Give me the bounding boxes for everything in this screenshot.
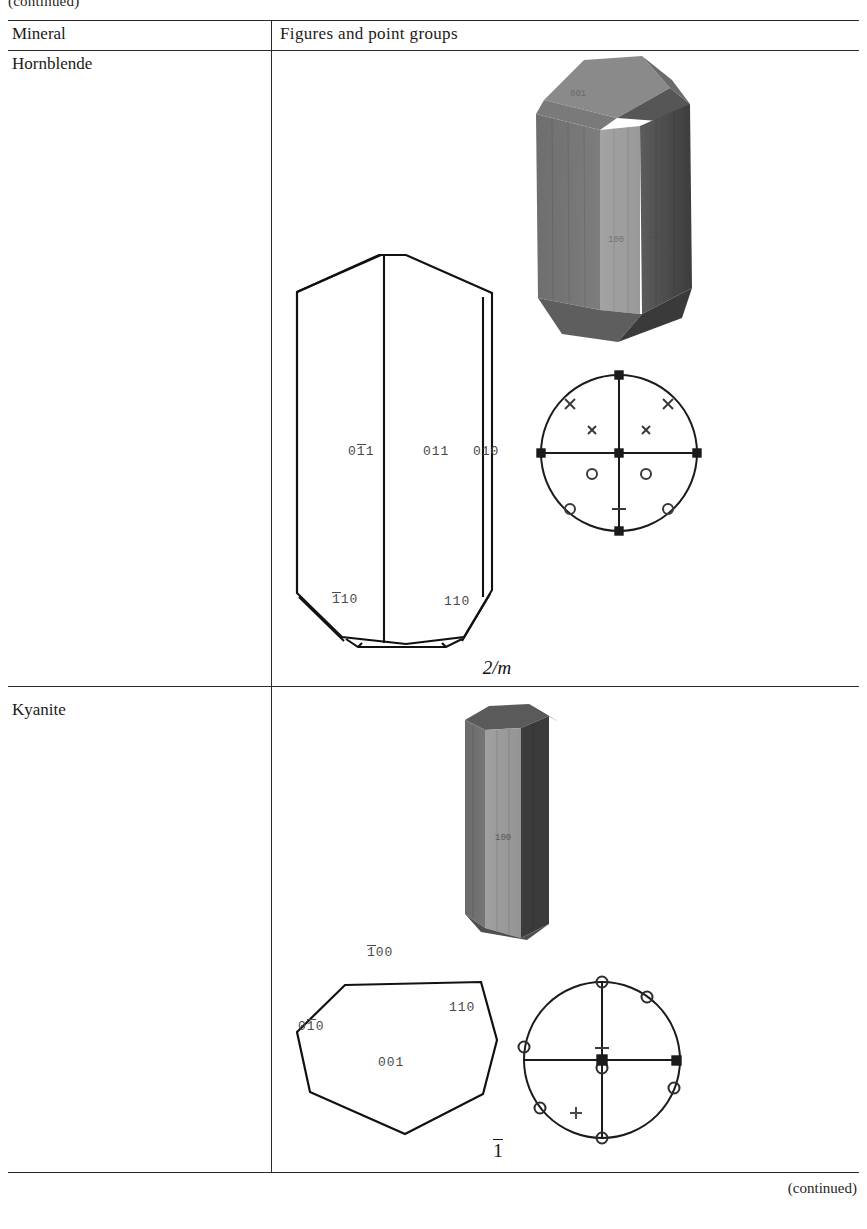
- hornblende-stereonet: [534, 362, 704, 544]
- kyanite-face-label-0bar10: 010: [298, 1019, 324, 1034]
- kyanite-3d-label-front: 100: [495, 833, 511, 843]
- table-bottom-rule: [8, 1172, 859, 1173]
- kyanite-face-label-001: 001: [378, 1055, 404, 1070]
- kyanite-point-group: 1: [468, 1140, 528, 1162]
- column-header-figures: Figures and point groups: [280, 24, 458, 44]
- page-bottom-continued-note: (continued): [788, 1180, 857, 1197]
- hornblende-face-label-010: 010: [473, 444, 499, 459]
- kyanite-line-drawing: [285, 940, 505, 1160]
- kyanite-face-label-bar100: 100: [367, 945, 393, 960]
- column-header-mineral: Mineral: [12, 24, 66, 44]
- hornblende-3d-label-top-right: 111: [648, 231, 664, 241]
- kyanite-stereonet: [512, 965, 692, 1155]
- hornblende-3d-label-center: 100: [608, 235, 624, 245]
- table-row-mineral-hornblende: Hornblende: [12, 54, 92, 74]
- hornblende-face-label-011: 011: [423, 444, 449, 459]
- table-row-mineral-kyanite: Kyanite: [12, 700, 66, 720]
- hornblende-point-group: 2/m: [452, 657, 542, 679]
- kyanite-3d-crystal-render: 100: [455, 700, 573, 945]
- kyanite-point-group-value: 1: [493, 1140, 503, 1162]
- table-header-rule: [8, 50, 859, 51]
- page-top-continued-note: (continued): [8, 0, 79, 10]
- hornblende-face-label-110: 110: [444, 594, 470, 609]
- table-top-rule: [8, 20, 859, 21]
- hornblende-3d-label-top-left: 001: [570, 89, 586, 99]
- table-row-divider: [8, 686, 859, 687]
- kyanite-face-label-110: 110: [449, 1000, 475, 1015]
- hornblende-face-label-bar110: 110: [332, 592, 358, 607]
- hornblende-3d-crystal-render: 001 100 111: [522, 52, 707, 357]
- table-column-divider: [271, 20, 272, 1172]
- hornblende-face-label-0bar11: 011: [348, 444, 374, 459]
